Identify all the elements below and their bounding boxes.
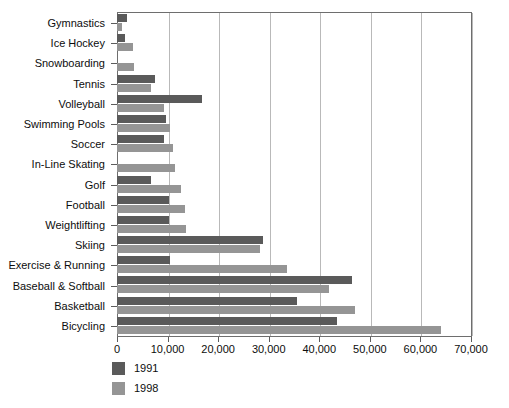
bar [117,34,125,42]
x-axis-tick [269,337,270,342]
bar [117,95,202,103]
bar [117,23,122,31]
x-axis-tick-label: 0 [114,343,120,356]
y-axis-label: Weightlifting [45,219,105,231]
x-axis-tick [420,337,421,342]
bar [117,43,133,51]
bar [117,265,287,273]
bar-group [117,255,471,275]
x-axis-tick [471,337,472,342]
chart-legend: 19911998 [112,358,232,398]
legend-label: 1998 [134,382,158,395]
y-axis-label: Swimming Pools [24,118,105,130]
bar [117,326,441,334]
y-axis-label: Football [66,199,105,211]
x-axis-tick [218,337,219,342]
y-axis-label: Soccer [71,138,105,150]
bar-group [117,235,471,255]
x-axis-tick [319,337,320,342]
y-axis-label: Snowboarding [35,57,105,69]
bar [117,205,185,213]
bar [117,144,173,152]
bar [117,104,164,112]
bar [117,225,186,233]
y-axis-label: Bicycling [62,320,105,332]
bar [117,14,127,22]
cropped-header-text [150,0,480,7]
x-axis-tick-label: 20,000 [201,343,235,356]
bar [117,176,151,184]
legend-entry[interactable]: 1991 [112,358,232,378]
bar [117,236,263,244]
gridline [472,13,473,336]
y-axis-label: Gymnastics [48,17,105,29]
bar [117,317,337,325]
bar-group [117,33,471,53]
legend-swatch [112,362,125,375]
bar [117,276,352,284]
bar-group [117,13,471,33]
y-axis-label: In-Line Skating [32,158,105,170]
x-axis-tick [117,337,118,342]
bar [117,135,164,143]
y-axis-label: Volleyball [59,98,105,110]
bar [117,84,151,92]
bar-group [117,215,471,235]
y-axis-label: Exercise & Running [8,259,105,271]
x-axis-tick-label: 70,000 [454,343,488,356]
bar [117,216,169,224]
bar [117,256,170,264]
x-axis-tick [168,337,169,342]
bar [117,285,329,293]
bar [117,245,260,253]
bar [117,115,166,123]
y-axis-label: Baseball & Softball [13,280,105,292]
x-axis-tick-label: 30,000 [252,343,286,356]
bar [117,164,175,172]
bar-group [117,134,471,154]
bar-group [117,195,471,215]
y-axis-label: Tennis [73,78,105,90]
bar-group [117,114,471,134]
bar-group [117,175,471,195]
bar-group [117,53,471,73]
bar [117,196,169,204]
bar-group [117,94,471,114]
legend-label: 1991 [134,362,158,375]
bars-layer [117,13,471,336]
y-axis: GymnasticsIce HockeySnowboardingTennisVo… [0,13,117,336]
x-axis-tick-label: 40,000 [302,343,336,356]
legend-entry[interactable]: 1998 [112,378,232,398]
bar [117,75,155,83]
legend-swatch [112,382,125,395]
bar [117,185,181,193]
bar-group [117,316,471,336]
bar [117,124,170,132]
x-axis-tick-label: 60,000 [404,343,438,356]
y-axis-label: Basketball [54,300,105,312]
x-axis-tick [370,337,371,342]
bar [117,63,134,71]
bar-group [117,74,471,94]
y-axis-label: Skiing [75,239,105,251]
bar [117,297,297,305]
bar [117,306,355,314]
y-axis-label: Golf [85,179,105,191]
bar-group [117,296,471,316]
bar-group [117,275,471,295]
bar-group [117,154,471,174]
bar-chart: GymnasticsIce HockeySnowboardingTennisVo… [0,0,509,408]
x-axis-tick-label: 50,000 [353,343,387,356]
x-axis-tick-label: 10,000 [151,343,185,356]
y-axis-label: Ice Hockey [51,37,105,49]
